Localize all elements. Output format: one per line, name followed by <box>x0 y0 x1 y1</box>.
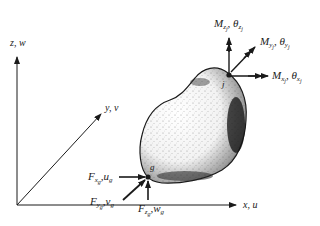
moment-x-label: Mxj, θxj <box>272 70 302 84</box>
rigid-body-diagram <box>0 0 320 226</box>
node-g-label: g <box>150 163 155 172</box>
node-g-dot <box>145 174 150 179</box>
moment-z-label: Mzj, θzj <box>214 18 243 32</box>
x-axis-label: x, u <box>243 200 257 210</box>
force-y-label: Fyg,vg <box>90 196 114 210</box>
rigid-body <box>140 68 246 183</box>
y-axis-label: y, v <box>105 103 118 113</box>
node-g-forces <box>119 174 151 200</box>
moment-y-label: Myj, θyj <box>260 36 290 50</box>
z-axis-label: z, w <box>10 38 26 48</box>
force-z-label: Fzg,wg <box>138 203 164 217</box>
moment-y-arrow <box>231 47 255 72</box>
node-j-label: j <box>222 80 225 89</box>
y-axis <box>17 114 101 205</box>
force-x-label: Fxg,ug <box>88 171 113 185</box>
node-j-dot <box>226 72 231 77</box>
force-y-arrow <box>123 180 145 200</box>
